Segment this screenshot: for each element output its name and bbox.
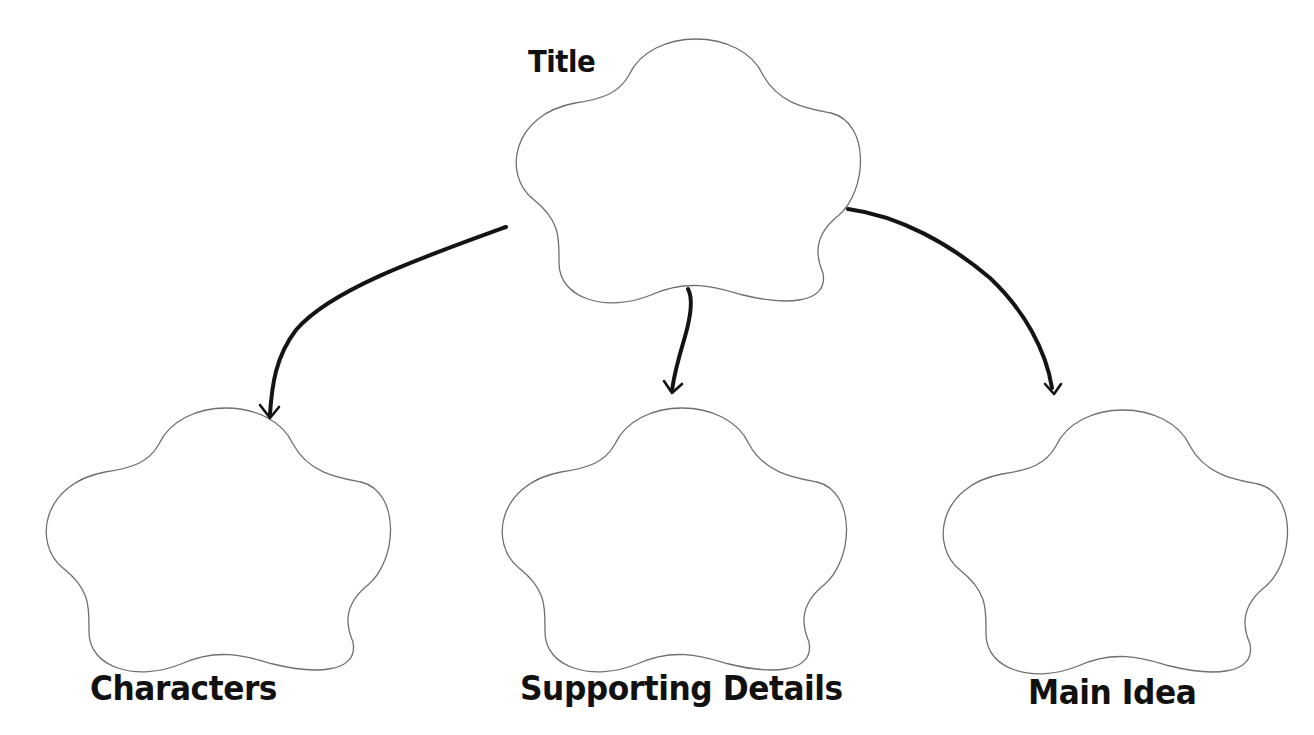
supporting-details-label: Supporting Details bbox=[520, 668, 843, 708]
characters-label: Characters bbox=[90, 668, 277, 708]
main-idea-node-shape bbox=[943, 410, 1287, 674]
arrow-to-characters bbox=[260, 227, 506, 418]
main-idea-label: Main Idea bbox=[1028, 672, 1196, 712]
diagram-canvas: Title Characters Supporting Details Main… bbox=[0, 0, 1314, 735]
supporting-details-node-shape bbox=[502, 408, 846, 672]
arrow-to-supporting-details bbox=[664, 289, 691, 393]
arrow-to-main-idea bbox=[848, 209, 1061, 394]
characters-node-shape bbox=[46, 408, 390, 672]
title-label: Title bbox=[528, 44, 595, 79]
